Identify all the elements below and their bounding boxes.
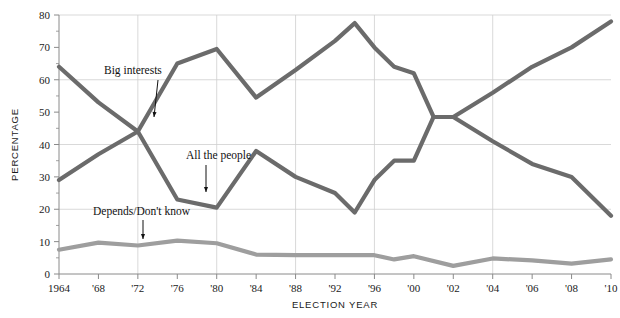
y-tick-label: 20 xyxy=(39,203,51,215)
x-tick-label: '00 xyxy=(407,282,420,294)
annotation-label: Big interests xyxy=(104,64,162,77)
y-tick-label: 10 xyxy=(39,236,51,248)
x-tick-label: '04 xyxy=(486,282,499,294)
series-line-all-the-people xyxy=(59,67,611,216)
annotation-label: All the people xyxy=(186,149,251,162)
series-line-big-interests xyxy=(59,21,611,180)
y-tick-label: 50 xyxy=(39,106,51,118)
x-tick-label: '80 xyxy=(210,282,223,294)
x-tick-label: 1964 xyxy=(48,282,71,294)
series-line-depends-don-t-know xyxy=(59,241,611,266)
x-tick-label: '92 xyxy=(329,282,342,294)
x-tick-label: '68 xyxy=(92,282,105,294)
x-tick-label: '84 xyxy=(250,282,263,294)
x-tick-label: '06 xyxy=(526,282,539,294)
x-tick-label: '10 xyxy=(605,282,618,294)
x-tick-label: '96 xyxy=(368,282,381,294)
x-tick-label: '02 xyxy=(447,282,460,294)
y-tick-label: 40 xyxy=(39,139,51,151)
annotation-arrowhead xyxy=(204,187,208,192)
annotation-arrowhead xyxy=(141,234,145,239)
y-tick-label: 70 xyxy=(39,41,51,53)
y-tick-label: 0 xyxy=(45,268,51,280)
x-tick-label: '88 xyxy=(289,282,302,294)
x-tick-label: '08 xyxy=(565,282,578,294)
annotation-label: Depends/Don't know xyxy=(93,205,191,218)
x-axis-title: ELECTION YEAR xyxy=(292,299,378,310)
line-chart: 010203040506070801964'68'72'76'80'84'88'… xyxy=(0,0,620,318)
x-tick-label: '76 xyxy=(171,282,184,294)
x-tick-label: '72 xyxy=(131,282,144,294)
chart-container: 010203040506070801964'68'72'76'80'84'88'… xyxy=(0,0,620,318)
y-axis-title: PERCENTAGE xyxy=(9,108,20,181)
y-tick-label: 80 xyxy=(39,9,51,21)
y-tick-label: 60 xyxy=(39,74,51,86)
y-tick-label: 30 xyxy=(39,171,51,183)
